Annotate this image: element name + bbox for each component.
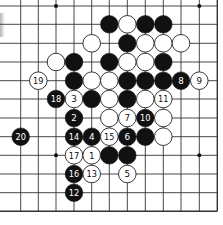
move-number: 17 (69, 151, 79, 161)
white-stone (83, 72, 101, 90)
white-stone (119, 15, 137, 33)
move-number: 8 (178, 76, 184, 86)
black-stone (101, 53, 119, 71)
black-stone (155, 53, 173, 71)
white-stone (137, 53, 155, 71)
black-stone (119, 35, 137, 53)
white-stone (101, 90, 119, 108)
white-stone (137, 35, 155, 53)
move-number: 4 (89, 132, 95, 142)
white-stone (155, 109, 173, 127)
white-stone: 9 (191, 72, 209, 90)
move-number: 3 (71, 94, 77, 104)
move-number: 9 (196, 76, 202, 86)
star-point (197, 4, 201, 8)
black-stone (155, 15, 173, 33)
star-point (54, 153, 58, 157)
black-stone: 16 (65, 165, 83, 183)
black-stone: 18 (47, 90, 65, 108)
white-stone (155, 35, 173, 53)
move-number: 6 (124, 132, 130, 142)
white-stone (101, 72, 119, 90)
white-stone: 7 (119, 109, 137, 127)
black-stone (65, 53, 83, 71)
move-number: 10 (140, 113, 150, 123)
black-stone (83, 90, 101, 108)
white-stone: 17 (65, 147, 83, 165)
black-stone: 2 (65, 109, 83, 127)
black-stone (137, 128, 155, 146)
move-number: 12 (69, 188, 79, 198)
black-stone: 8 (172, 72, 190, 90)
white-stone: 11 (155, 90, 173, 108)
white-stone: 19 (30, 72, 48, 90)
white-stone: 15 (101, 128, 119, 146)
black-stone (101, 15, 119, 33)
black-stone: 14 (65, 128, 83, 146)
black-stone (119, 90, 137, 108)
move-number: 11 (158, 94, 168, 104)
white-stone (172, 35, 190, 53)
star-point (197, 153, 201, 157)
black-stone: 6 (119, 128, 137, 146)
move-number: 15 (104, 132, 114, 142)
white-stone: 5 (119, 165, 137, 183)
black-stone (137, 15, 155, 33)
white-stone (119, 53, 137, 71)
black-stone (65, 72, 83, 90)
move-number: 1 (89, 151, 95, 161)
move-number: 18 (51, 94, 61, 104)
black-stone: 4 (83, 128, 101, 146)
move-number: 7 (124, 113, 130, 123)
move-number: 13 (86, 169, 96, 179)
white-stone: 3 (65, 90, 83, 108)
white-stone (137, 90, 155, 108)
move-number: 5 (124, 169, 130, 179)
black-stone (155, 72, 173, 90)
move-number: 19 (33, 76, 43, 86)
move-number: 16 (69, 169, 79, 179)
white-stone (101, 109, 119, 127)
black-stone (137, 72, 155, 90)
black-stone (119, 147, 137, 165)
black-stone (119, 72, 137, 90)
move-number: 14 (69, 132, 79, 142)
move-number: 20 (15, 132, 25, 142)
white-stone: 1 (83, 147, 101, 165)
black-stone: 12 (65, 184, 83, 202)
black-stone: 10 (137, 109, 155, 127)
go-board[interactable]: 1989183112710201441561711613512 (0, 0, 223, 225)
white-stone: 13 (83, 165, 101, 183)
white-stone (83, 35, 101, 53)
black-stone: 20 (12, 128, 30, 146)
white-stone (155, 128, 173, 146)
move-number: 2 (71, 113, 77, 123)
star-point (54, 4, 58, 8)
white-stone (47, 53, 65, 71)
black-stone (101, 147, 119, 165)
